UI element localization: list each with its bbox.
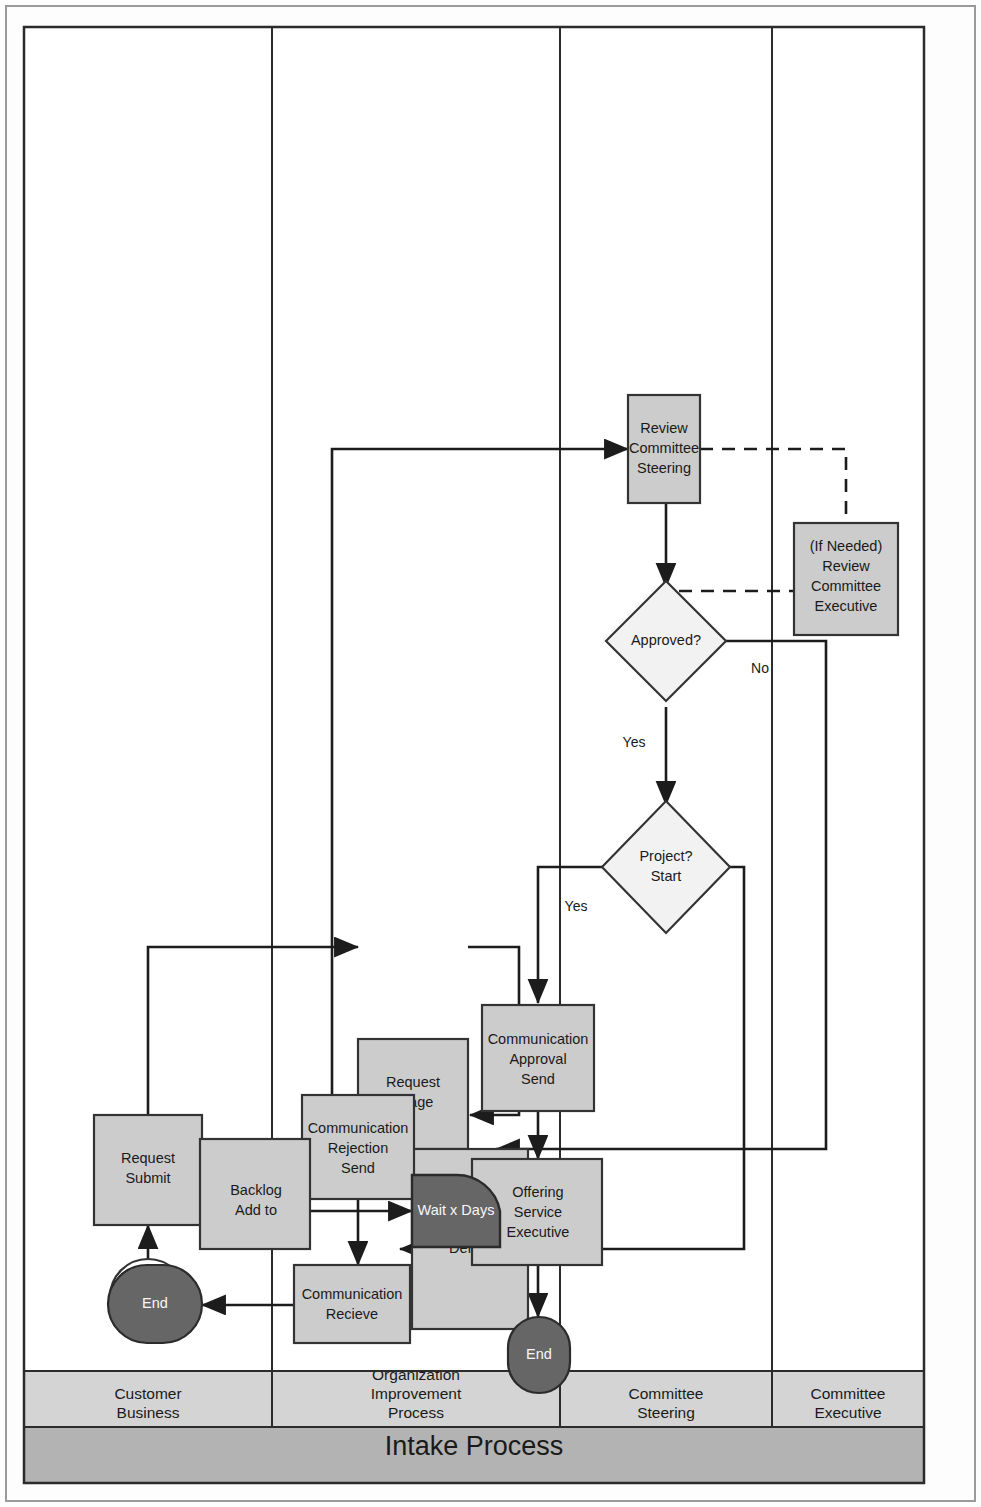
lane-label-process-improvement: Improvement — [371, 1385, 462, 1402]
node-exec-review-label-line2: Committee — [811, 578, 881, 594]
node-send-rejection-label-line3: Communication — [308, 1120, 409, 1136]
node-wait-x-days-label: Wait x Days — [418, 1202, 495, 1218]
node-exec-service-label-line1: Executive — [507, 1224, 570, 1240]
node-end-service-label: End — [526, 1346, 552, 1362]
node-exec-review-label-line1: Executive — [815, 598, 878, 614]
node-send-approval-label-line1: Send — [521, 1071, 555, 1087]
page-title: Intake Process — [385, 1431, 564, 1461]
node-recieve-comm-label-line1: Recieve — [326, 1306, 378, 1322]
node-exec-review-label-line3: Review — [822, 558, 870, 574]
node-recieve-comm-label-line2: Communication — [302, 1286, 403, 1302]
node-submit-request-label-line2: Request — [121, 1150, 175, 1166]
node-start-project-label-line1: Start — [651, 868, 682, 884]
node-steering-committee-review[interactable]: Steering Committee Review — [628, 395, 700, 503]
pool-title: Intake Process — [24, 1427, 924, 1483]
node-approved-label: Approved? — [631, 632, 701, 648]
node-add-to-backlog-label-line1: Add to — [235, 1202, 277, 1218]
lane-label-business-customer-line1: Customer — [114, 1385, 181, 1402]
lane-label-executive-committee: Executive — [814, 1404, 881, 1421]
lane-label-steering-committee: Committee — [629, 1385, 704, 1402]
node-send-approval-label-line2: Approval — [509, 1051, 566, 1067]
node-start-project-label-line2: Project? — [639, 848, 692, 864]
node-submit-request[interactable]: Submit Request — [94, 1115, 202, 1225]
lane-label-process-improvement: Process — [388, 1404, 444, 1421]
diagram-page: Intake Process BusinessCustomer ProcessI… — [0, 0, 981, 1507]
node-end-service[interactable]: End — [508, 1317, 570, 1393]
node-end-customer[interactable]: End — [108, 1265, 202, 1343]
node-submit-request-label-line1: Submit — [125, 1170, 170, 1186]
lane-label-band-executive-committee: ExecutiveCommittee — [772, 1371, 924, 1427]
node-exec-service-label-line3: Offering — [512, 1184, 563, 1200]
node-executive-committee-review[interactable]: Executive Committee Review (If Needed) — [794, 523, 898, 635]
node-send-rejection-label-line2: Rejection — [328, 1140, 388, 1156]
node-exec-review-label-line4: (If Needed) — [810, 538, 883, 554]
swimlane-flowchart: Intake Process BusinessCustomer ProcessI… — [0, 0, 981, 1507]
node-exec-service-label-line2: Service — [514, 1204, 562, 1220]
node-steering-review-label-line2: Committee — [629, 440, 699, 456]
node-send-approval-communication[interactable]: Send Approval Communication — [482, 1005, 594, 1111]
node-end-customer-label: End — [142, 1295, 168, 1311]
lane-label-band-steering-committee: SteeringCommittee — [560, 1371, 772, 1427]
lane-label-business-customer-line1: Business — [117, 1404, 180, 1421]
rotated-diagram-canvas: Intake Process BusinessCustomer ProcessI… — [0, 0, 981, 1507]
node-add-to-backlog-label-line2: Backlog — [230, 1182, 282, 1198]
lane-label-executive-committee: Committee — [811, 1385, 886, 1402]
node-send-rejection-label-line1: Send — [341, 1160, 375, 1176]
edge-label-approved-yes: Yes — [623, 734, 646, 750]
node-triage-request-label-line2: Request — [386, 1074, 440, 1090]
lane-label-band-business-customer: BusinessCustomer — [24, 1371, 272, 1427]
node-send-approval-label-line3: Communication — [488, 1031, 589, 1047]
node-steering-review-label-line1: Steering — [637, 460, 691, 476]
lane-label-steering-committee: Steering — [637, 1404, 695, 1421]
node-recieve-communication[interactable]: Recieve Communication — [294, 1265, 410, 1343]
node-send-rejection-communication[interactable]: Send Rejection Communication — [302, 1095, 414, 1199]
edge-label-approved-no: No — [751, 660, 769, 676]
node-wait-x-days[interactable]: Wait x Days — [412, 1175, 500, 1247]
node-steering-review-label-line3: Review — [640, 420, 688, 436]
lane-body-executive-committee — [772, 27, 924, 1371]
edge-label-start-project-yes: Yes — [565, 898, 588, 914]
node-add-to-backlog[interactable]: Add to Backlog — [200, 1139, 310, 1249]
